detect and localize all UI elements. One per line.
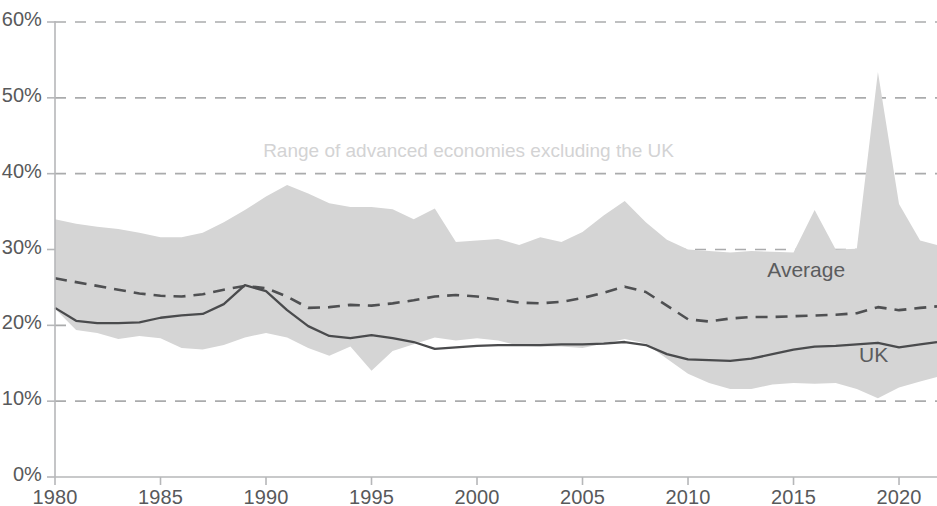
y-axis-tick-label: 60%: [2, 8, 42, 31]
x-axis-tick-label: 1990: [226, 486, 306, 506]
chart-container: 0%10%20%30%40%50%60%19801985199019952000…: [0, 0, 937, 506]
y-axis-tick-label: 10%: [2, 387, 42, 410]
range-band-area: [55, 72, 937, 398]
x-axis-tick-label: 1995: [332, 486, 412, 506]
chart-annotation-uk-label: UK: [859, 343, 888, 367]
y-axis-tick-label: 40%: [2, 160, 42, 183]
x-axis-tick-label: 2015: [754, 486, 834, 506]
y-axis-tick-label: 50%: [2, 84, 42, 107]
y-axis-tick-label: 20%: [2, 311, 42, 334]
y-axis-tick-label: 0%: [13, 463, 42, 486]
x-axis-tick-label: 2000: [437, 486, 517, 506]
x-axis-tick-label: 1980: [15, 486, 95, 506]
x-axis-tick-label: 2020: [859, 486, 937, 506]
chart-plot: [0, 0, 937, 506]
x-axis-tick-label: 2010: [648, 486, 728, 506]
x-axis-tick-label: 2005: [543, 486, 623, 506]
chart-annotation-average-label: Average: [767, 258, 845, 282]
x-axis-tick-label: 1985: [121, 486, 201, 506]
y-axis-tick-label: 30%: [2, 236, 42, 259]
chart-annotation-range-label: Range of advanced economies excluding th…: [263, 140, 674, 162]
